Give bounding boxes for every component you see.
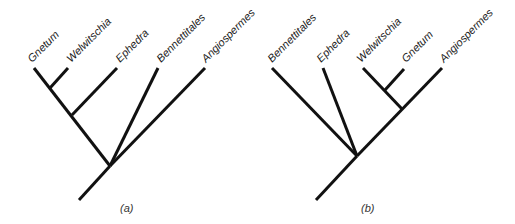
phylogeny-figure: Gnetum Welwitschia Ephedra Bennettitales… [0, 0, 515, 224]
tree-b-label-angiospermes: Angiospermes [436, 6, 495, 65]
tree-b-label-welwitschia: Welwitschia [354, 15, 403, 64]
tree-a-bennettitales-branch [110, 68, 158, 166]
tree-a-label-welwitschia: Welwitschia [64, 15, 113, 64]
tree-a-label-ephedra: Ephedra [113, 27, 151, 65]
panel-a-caption: (a) [120, 202, 134, 214]
tree-b: Bennettitales Ephedra Welwitschia Gnetum… [265, 6, 496, 214]
tree-a: Gnetum Welwitschia Ephedra Bennettitales… [25, 6, 258, 214]
tree-b-root-branch [316, 156, 357, 200]
tree-a-label-gnetum: Gnetum [25, 28, 61, 64]
tree-b-label-ephedra: Ephedra [314, 27, 352, 65]
tree-a-ephedra-branch [72, 68, 117, 115]
tree-b-bennettitales-branch [272, 68, 357, 156]
tree-b-welwitschia-branch [363, 68, 402, 109]
tree-a-label-angiospermes: Angiospermes [198, 6, 257, 65]
tree-b-angiospermes-branch [357, 68, 442, 156]
panel-b-caption: (b) [361, 202, 375, 214]
tree-a-welwitschia-branch [50, 68, 68, 88]
tree-b-label-gnetum: Gnetum [399, 28, 435, 64]
tree-a-root-branch [79, 166, 110, 200]
tree-b-label-bennettitales: Bennettitales [265, 11, 319, 65]
tree-a-angiospermes-branch [110, 68, 205, 166]
tree-a-gnetum-branch [34, 68, 110, 166]
tree-b-ephedra-branch [323, 68, 357, 156]
tree-b-gnetum-branch [385, 69, 404, 90]
